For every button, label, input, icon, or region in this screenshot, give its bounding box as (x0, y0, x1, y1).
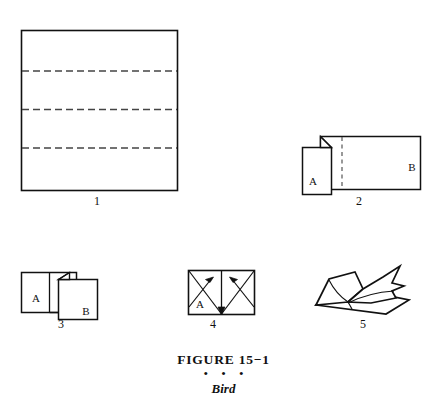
step1-square (22, 31, 178, 191)
step2-label-a: A (303, 176, 323, 187)
step-number-2: 2 (347, 195, 371, 207)
figure-illustration (0, 0, 447, 411)
step-number-5: 5 (351, 318, 375, 330)
step4-label-a: A (190, 299, 210, 310)
step-5-diagram (316, 266, 409, 314)
step3-label-b: B (76, 306, 96, 317)
step3-label-a: A (26, 293, 46, 304)
step-1-diagram (22, 31, 178, 191)
step-number-1: 1 (85, 195, 109, 207)
figure-caption: FIGURE 15−1 • • • Bird (0, 352, 447, 398)
step2-label-b: B (402, 162, 422, 173)
step-number-4: 4 (201, 318, 225, 330)
step2-flap-a (303, 148, 332, 195)
caption-dots: • • • (0, 368, 447, 380)
step-number-3: 3 (49, 318, 73, 330)
figure-page: 1 2 3 4 5 A B A B A FIGURE 15−1 • • • Bi… (0, 0, 447, 411)
caption-subtitle: Bird (0, 381, 447, 398)
